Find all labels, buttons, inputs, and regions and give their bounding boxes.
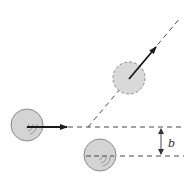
scattering-diagram: b — [0, 0, 190, 181]
impact-parameter-label: b — [168, 137, 175, 150]
target-ball — [84, 139, 116, 171]
incoming-ball — [11, 109, 43, 141]
